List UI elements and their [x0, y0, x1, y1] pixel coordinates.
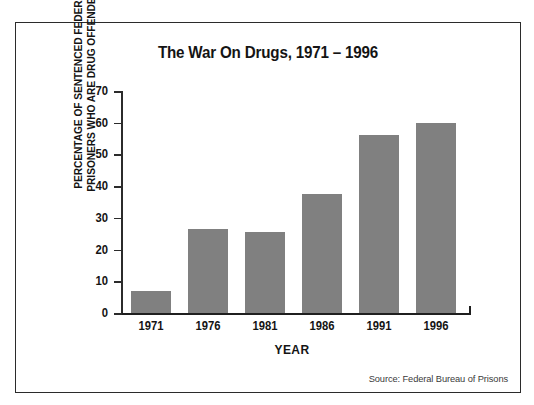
chart-title: The War On Drugs, 1971 – 1996 [36, 43, 500, 62]
y-axis-tick-label: 20 [70, 243, 108, 257]
x-axis-tick-label: 1981 [238, 319, 292, 333]
chart-frame: The War On Drugs, 1971 – 1996 PERCENTAGE… [15, 22, 521, 393]
x-axis-tick-label: 1996 [409, 319, 463, 333]
y-axis-tick-label: 0 [70, 306, 108, 320]
bar [416, 123, 456, 313]
x-axis-line [121, 313, 471, 315]
x-axis-tick-label: 1991 [352, 319, 406, 333]
y-axis-tick-label: 50 [70, 147, 108, 161]
y-axis-tick-label: 40 [70, 179, 108, 193]
y-axis-tick [114, 313, 122, 315]
bar [131, 291, 171, 313]
source-note: Source: Federal Bureau of Prisons [369, 374, 508, 384]
y-axis-tick-label: 10 [70, 274, 108, 288]
y-axis-tick-label: 30 [70, 211, 108, 225]
y-axis-tick-label: 70 [70, 84, 108, 98]
x-axis-tick-label: 1976 [181, 319, 235, 333]
bar [359, 135, 399, 313]
y-axis-tick-label: 60 [70, 116, 108, 130]
x-axis-tick-label: 1986 [295, 319, 349, 333]
x-axis-end-cap [469, 306, 471, 315]
plot-area [121, 91, 463, 313]
bar [188, 229, 228, 313]
bar [302, 194, 342, 313]
x-axis-title: YEAR [121, 343, 463, 357]
x-axis-tick-label: 1971 [124, 319, 178, 333]
bar [245, 232, 285, 313]
